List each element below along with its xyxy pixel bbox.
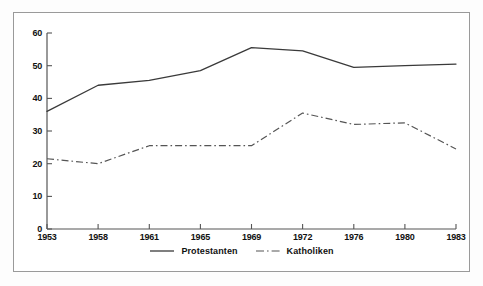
x-tick-label-1969: 1969	[232, 232, 272, 242]
x-tick-label-1965: 1965	[180, 232, 220, 242]
x-tick-label-1972: 1972	[283, 232, 323, 242]
legend-line-solid-icon	[149, 247, 175, 255]
legend-entry-katholiken: Katholiken	[255, 246, 334, 256]
legend-line-dashdot-icon	[255, 247, 281, 255]
series-line-katholiken	[47, 113, 456, 164]
y-tick-label-10: 10	[14, 191, 42, 201]
y-tick-label-30: 30	[14, 126, 42, 136]
x-tick-label-1953: 1953	[27, 232, 67, 242]
series-line-protestanten	[47, 48, 456, 112]
y-tick-label-20: 20	[14, 159, 42, 169]
x-tick-label-1980: 1980	[385, 232, 425, 242]
y-tick-label-60: 60	[14, 28, 42, 38]
y-tick-marks	[47, 33, 52, 229]
legend-label-protestanten: Protestanten	[181, 246, 237, 256]
x-tick-label-1976: 1976	[334, 232, 374, 242]
legend-label-katholiken: Katholiken	[287, 246, 334, 256]
y-tick-label-50: 50	[14, 61, 42, 71]
chart-frame: 0 10 20 30 40 50 60 1953 1958 1961 1965 …	[13, 12, 470, 272]
chart-legend: Protestanten Katholiken	[0, 246, 483, 256]
x-tick-label-1983: 1983	[436, 232, 476, 242]
chart-figure: 0 10 20 30 40 50 60 1953 1958 1961 1965 …	[0, 0, 483, 286]
legend-entry-protestanten: Protestanten	[149, 246, 237, 256]
y-tick-label-40: 40	[14, 93, 42, 103]
x-tick-label-1961: 1961	[129, 232, 169, 242]
x-tick-marks	[47, 224, 456, 229]
x-tick-label-1958: 1958	[78, 232, 118, 242]
